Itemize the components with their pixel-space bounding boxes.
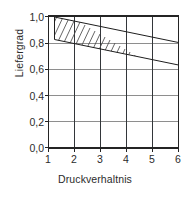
x-tick-label: 5 — [143, 154, 161, 165]
x-tick-label: 4 — [117, 154, 135, 165]
x-tick-label: 2 — [65, 154, 83, 165]
x-tick-label: 3 — [91, 154, 109, 165]
x-tick-label: 1 — [39, 154, 57, 165]
x-tick-label: 6 — [169, 154, 187, 165]
liefergrad-chart: Liefergrad 1,0 0,8 0,6 0,4 0,2 0,0 — [0, 0, 190, 197]
x-axis-title: Druckverhaltnis — [0, 173, 190, 185]
x-axis-tick-labels: 1 2 3 4 5 6 — [0, 0, 190, 197]
